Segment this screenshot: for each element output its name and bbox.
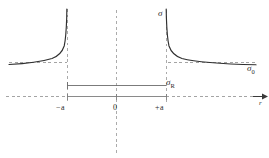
sigma-R-label: σR xyxy=(166,78,175,89)
sigma-zero-subscript: 0 xyxy=(251,68,254,75)
tick-label-minus-a: −a xyxy=(56,104,65,112)
sigma-zero-label: σ0 xyxy=(247,64,255,75)
sigma-left-branch-curve xyxy=(9,9,67,65)
tick-label-plus-a: +a xyxy=(155,104,164,112)
tick-label-zero: 0 xyxy=(113,104,117,112)
sigma-R-subscript: R xyxy=(170,82,174,89)
sigma-right-branch-curve xyxy=(166,9,256,65)
stress-distribution-figure: σ σ0 σR −a 0 +a r xyxy=(0,0,269,158)
sigma-R-level-line xyxy=(67,82,166,89)
plot-canvas xyxy=(0,0,269,158)
x-axis-r-label: r xyxy=(259,100,262,107)
y-axis-sigma-label: σ xyxy=(158,9,162,18)
